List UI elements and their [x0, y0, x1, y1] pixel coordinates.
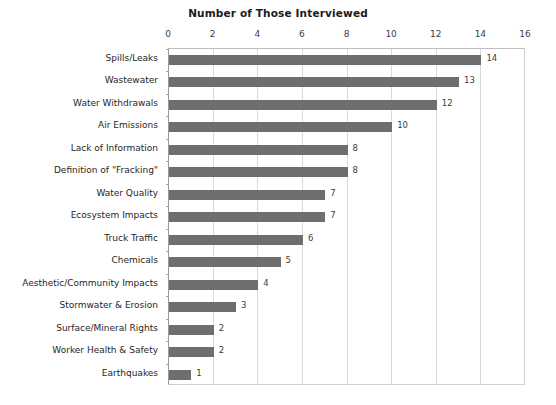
- category-tick: [166, 71, 169, 72]
- bar-row: 8: [169, 161, 524, 183]
- bar-value-label: 5: [286, 255, 291, 265]
- x-axis-tick-labels: 0246810121416: [0, 29, 556, 43]
- bar-value-label: 2: [219, 345, 224, 355]
- bar-row: 13: [169, 71, 524, 93]
- category-tick: [166, 296, 169, 297]
- category-label: Ecosystem Impacts: [0, 210, 163, 220]
- category-label: Chemicals: [0, 255, 163, 265]
- bar: [169, 122, 392, 132]
- category-tick: [166, 116, 169, 117]
- x-tick-label-2: 2: [198, 29, 228, 39]
- bar: [169, 55, 481, 65]
- bar-value-label: 3: [241, 300, 246, 310]
- category-tick: [166, 251, 169, 252]
- x-tick-label-12: 12: [421, 29, 451, 39]
- bar: [169, 325, 214, 335]
- category-tick: [166, 319, 169, 320]
- bar-value-label: 10: [397, 120, 408, 130]
- category-label: Surface/Mineral Rights: [0, 323, 163, 333]
- category-tick: [166, 206, 169, 207]
- bar: [169, 167, 348, 177]
- category-tick: [166, 94, 169, 95]
- category-label: Truck Traffic: [0, 233, 163, 243]
- x-tick-label-4: 4: [242, 29, 272, 39]
- x-tick-label-14: 14: [465, 29, 495, 39]
- category-tick: [166, 184, 169, 185]
- category-axis-labels: Spills/LeaksWastewaterWater WithdrawalsA…: [0, 48, 163, 385]
- bar-value-label: 7: [330, 188, 335, 198]
- bar-value-label: 13: [464, 75, 475, 85]
- bar-value-label: 4: [263, 278, 268, 288]
- bar-value-label: 14: [486, 53, 497, 63]
- bar: [169, 257, 281, 267]
- category-tick: [166, 364, 169, 365]
- bar-row: 6: [169, 229, 524, 251]
- category-label: Aesthetic/Community Impacts: [0, 278, 163, 288]
- category-tick: [166, 274, 169, 275]
- bar-row: 8: [169, 139, 524, 161]
- bar-row: 10: [169, 116, 524, 138]
- bar: [169, 280, 258, 290]
- bar-chart: Number of Those Interviewed 024681012141…: [0, 0, 556, 405]
- bar-value-label: 7: [330, 210, 335, 220]
- bar: [169, 190, 325, 200]
- bar-value-label: 2: [219, 323, 224, 333]
- category-label: Water Withdrawals: [0, 98, 163, 108]
- bar-value-label: 1: [196, 368, 201, 378]
- category-tick: [166, 229, 169, 230]
- bar-row: 3: [169, 296, 524, 318]
- bar-row: 7: [169, 184, 524, 206]
- category-label: Stormwater & Erosion: [0, 300, 163, 310]
- bar-row: 1: [169, 364, 524, 386]
- bar-row: 4: [169, 274, 524, 296]
- bar: [169, 145, 348, 155]
- chart-title: Number of Those Interviewed: [0, 7, 556, 19]
- category-tick: [166, 161, 169, 162]
- category-tick: [166, 139, 169, 140]
- bar-value-label: 8: [353, 143, 358, 153]
- bar-value-label: 8: [353, 165, 358, 175]
- x-tick-label-8: 8: [332, 29, 362, 39]
- x-tick-label-16: 16: [510, 29, 540, 39]
- category-tick: [166, 341, 169, 342]
- bar: [169, 77, 459, 87]
- bar: [169, 100, 437, 110]
- bar-row: 2: [169, 341, 524, 363]
- category-label: Spills/Leaks: [0, 53, 163, 63]
- category-label: Lack of Information: [0, 143, 163, 153]
- category-label: Water Quality: [0, 188, 163, 198]
- bar-value-label: 6: [308, 233, 313, 243]
- category-label: Earthquakes: [0, 368, 163, 378]
- category-label: Definition of "Fracking": [0, 165, 163, 175]
- bar-row: 12: [169, 94, 524, 116]
- bar: [169, 235, 303, 245]
- category-label: Worker Health & Safety: [0, 345, 163, 355]
- bar-row: 14: [169, 49, 524, 71]
- x-tick-label-6: 6: [287, 29, 317, 39]
- category-label: Air Emissions: [0, 120, 163, 130]
- x-tick-label-10: 10: [376, 29, 406, 39]
- bar: [169, 302, 236, 312]
- bar-row: 5: [169, 251, 524, 273]
- bar-row: 7: [169, 206, 524, 228]
- plot-area: 1413121088776543221: [168, 48, 525, 385]
- bar: [169, 370, 191, 380]
- bar: [169, 347, 214, 357]
- category-label: Wastewater: [0, 75, 163, 85]
- bar-row: 2: [169, 319, 524, 341]
- bar: [169, 212, 325, 222]
- x-tick-label-0: 0: [153, 29, 183, 39]
- category-tick: [166, 49, 169, 50]
- bar-value-label: 12: [442, 98, 453, 108]
